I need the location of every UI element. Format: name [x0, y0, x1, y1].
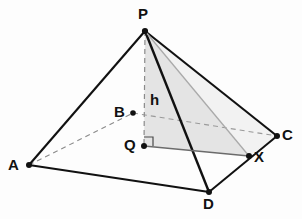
pyramid-svg [0, 0, 302, 219]
label-b: B [114, 104, 125, 119]
label-a: A [8, 157, 19, 172]
vertex-dot-b [130, 110, 136, 116]
vertex-dot-c [274, 133, 280, 139]
label-height-h: h [150, 92, 159, 107]
vertex-dot-p [142, 28, 148, 34]
label-x: X [254, 149, 264, 164]
vertex-dot-q [141, 143, 147, 149]
label-d: D [203, 196, 214, 211]
label-c: C [282, 127, 293, 142]
vertex-dot-a [26, 162, 32, 168]
pyramid-diagram: P A B C D Q X h [0, 0, 302, 219]
label-p: P [138, 6, 148, 21]
label-q: Q [124, 137, 136, 152]
vertex-dot-x [246, 153, 252, 159]
